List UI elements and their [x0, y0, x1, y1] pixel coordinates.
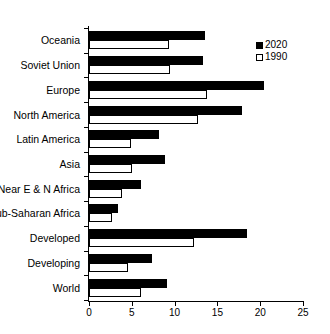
bar-1990-world [89, 288, 141, 297]
x-axis-tick-label: 20 [248, 307, 272, 318]
x-axis-tick-label: 15 [205, 307, 229, 318]
category-label: Latin America [16, 133, 80, 145]
x-axis-tick-label: 25 [291, 307, 315, 318]
category-label: Oceania [41, 34, 80, 46]
legend-item: 1990 [256, 51, 287, 63]
bar-1990-developed [89, 238, 194, 247]
category-label: North America [13, 109, 80, 121]
x-axis-tick [217, 302, 218, 306]
x-axis-tick [260, 302, 261, 306]
bar-2020-world [89, 279, 167, 288]
x-axis-tick [303, 302, 304, 306]
bar-2020-soviet-union [89, 56, 203, 65]
bar-2020-developed [89, 229, 247, 238]
bar-1990-north-america [89, 115, 198, 124]
bar-2020-latin-america [89, 130, 159, 139]
plot-area [89, 28, 303, 300]
category-label: Europe [46, 84, 80, 96]
bar-1990-asia [89, 164, 132, 173]
filled-square-icon [256, 42, 263, 49]
category-label: Near E & N Africa [0, 183, 80, 195]
x-axis-tick-label: 0 [77, 307, 101, 318]
y-axis-tick [84, 300, 89, 301]
bar-2020-europe [89, 81, 264, 90]
hollow-square-icon [256, 54, 263, 61]
x-axis-tick-label: 5 [120, 307, 144, 318]
x-axis-tick [132, 302, 133, 306]
bar-1990-near-e-n-africa [89, 189, 122, 198]
x-axis-tick-label: 10 [163, 307, 187, 318]
category-label: Sub-Saharan Africa [0, 207, 80, 219]
legend-label: 2020 [265, 39, 287, 51]
x-axis-line [88, 301, 304, 302]
category-label: Developed [30, 232, 80, 244]
x-axis-tick [175, 302, 176, 306]
bar-chart: 0510152025 OceaniaSoviet UnionEuropeNort… [0, 0, 330, 334]
legend-label: 1990 [265, 51, 287, 63]
bar-1990-latin-america [89, 139, 131, 148]
bar-1990-europe [89, 90, 207, 99]
category-label: Asia [60, 158, 80, 170]
legend-item: 2020 [256, 39, 287, 51]
category-label: Developing [27, 257, 80, 269]
bar-2020-developing [89, 254, 152, 263]
chart-legend: 20201990 [256, 39, 287, 63]
bar-1990-oceania [89, 40, 169, 49]
category-label: Soviet Union [20, 59, 80, 71]
bar-1990-developing [89, 263, 128, 272]
x-axis-tick [89, 302, 90, 306]
figure-caption [2, 323, 328, 332]
category-label: World [53, 282, 80, 294]
bar-1990-soviet-union [89, 65, 170, 74]
bar-2020-near-e-n-africa [89, 180, 141, 189]
bar-2020-sub-saharan-africa [89, 204, 118, 213]
bar-1990-sub-saharan-africa [89, 213, 112, 222]
bar-2020-asia [89, 155, 165, 164]
bar-2020-oceania [89, 31, 205, 40]
bar-2020-north-america [89, 106, 242, 115]
